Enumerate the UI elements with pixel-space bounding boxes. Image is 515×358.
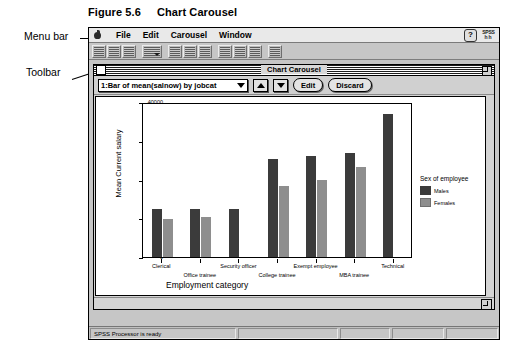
carousel-control-bar: 1:Bar of mean(salnow) by jobcat Edit Dis… <box>94 76 494 95</box>
x-tick-label: College trainee <box>259 272 296 278</box>
toolbar-group-file <box>92 45 136 58</box>
chart-bar <box>279 186 289 257</box>
save-file-icon[interactable] <box>107 45 121 58</box>
menu-item-window[interactable]: Window <box>213 29 258 42</box>
status-cell-c <box>392 328 444 339</box>
spss-logo-icon: SPSS hh <box>481 30 496 41</box>
menu-item-carousel[interactable]: Carousel <box>165 29 213 42</box>
toolbar-group-help <box>268 45 282 58</box>
legend-label: Males <box>434 188 449 194</box>
find-icon[interactable] <box>198 45 212 58</box>
toolbar <box>89 43 499 60</box>
help-tool-icon[interactable] <box>268 45 282 58</box>
legend-swatch <box>420 198 431 207</box>
chart-select-dropdown[interactable]: 1:Bar of mean(salnow) by jobcat <box>98 79 248 92</box>
help-question-icon[interactable]: ? <box>464 29 477 42</box>
insert-variable-icon[interactable] <box>233 45 247 58</box>
x-tick-mark <box>354 259 355 263</box>
chart-bar <box>268 159 278 257</box>
chart-window-titlebar[interactable]: Chart Carousel <box>94 65 494 76</box>
split-file-icon[interactable] <box>248 45 262 58</box>
chart-legend-title: Sex of employee <box>420 175 484 182</box>
edit-button[interactable]: Edit <box>293 78 323 92</box>
toolbar-group-navigate <box>168 45 212 58</box>
chart-y-axis-label: Mean Current salary <box>114 106 123 222</box>
toolbar-group-dialog-recall <box>142 45 162 58</box>
status-cell-b <box>340 328 390 339</box>
x-tick-mark <box>277 259 278 263</box>
previous-chart-button[interactable] <box>253 79 268 92</box>
chart-legend-entry: Females <box>420 198 484 207</box>
callout-menu-bar: Menu bar <box>24 30 68 42</box>
figure-number: Figure 5.6 <box>88 6 141 18</box>
y-tick-mark <box>139 258 143 259</box>
legend-swatch <box>420 186 431 195</box>
x-tick-mark <box>200 259 201 263</box>
chart-bar <box>201 217 211 257</box>
x-tick-label: MBA trainee <box>339 272 369 278</box>
status-message: SPSS Processor is ready <box>90 328 236 339</box>
chart-carousel-window: Chart Carousel 1:Bar of mean(salnow) by … <box>93 64 495 310</box>
chart-bar <box>345 153 355 257</box>
chart-select-value: 1:Bar of mean(salnow) by jobcat <box>101 81 235 90</box>
triangle-up-icon <box>257 83 265 88</box>
callout-toolbar: Toolbar <box>26 66 60 78</box>
chart-legend-entries: MalesFemales <box>420 186 484 207</box>
grow-box-icon[interactable] <box>481 299 492 310</box>
figure-title: Chart Carousel <box>157 6 237 18</box>
chart-bar <box>190 209 200 257</box>
menu-item-file[interactable]: File <box>110 29 137 42</box>
chart-window-title: Chart Carousel <box>94 65 494 75</box>
x-tick-label: Office trainee <box>184 272 217 278</box>
x-tick-label: Exempt employee <box>294 263 338 269</box>
apple-icon[interactable] <box>93 30 102 40</box>
status-cell-d <box>446 328 498 339</box>
goto-case-icon[interactable] <box>168 45 182 58</box>
x-tick-label: Technical <box>381 263 404 269</box>
chart-bar <box>152 209 162 257</box>
chevron-down-icon <box>237 83 245 88</box>
legend-label: Females <box>434 200 455 206</box>
application-window: File Edit Carousel Window ? SPSS hh <box>88 27 500 340</box>
chart-window-title-text: Chart Carousel <box>261 65 327 74</box>
chart-bar <box>229 209 239 257</box>
recall-dialog-icon[interactable] <box>142 45 162 58</box>
discard-button[interactable]: Discard <box>328 78 372 92</box>
chart-x-axis-label: Employment category <box>166 280 248 290</box>
status-bar: SPSS Processor is ready <box>89 326 499 339</box>
chart-bar <box>383 114 393 257</box>
figure-caption: Figure 5.6Chart Carousel <box>88 6 237 18</box>
chart-bar <box>317 180 327 258</box>
chart-window-bottom-bar <box>94 297 494 309</box>
spss-logo-line2: hh <box>481 35 496 40</box>
menu-bar: File Edit Carousel Window ? SPSS hh <box>89 28 499 43</box>
next-chart-button[interactable] <box>273 79 288 92</box>
print-icon[interactable] <box>122 45 136 58</box>
status-cell-a <box>238 328 338 339</box>
chart-plot-area <box>142 103 412 258</box>
chart-bar <box>306 156 316 257</box>
chart-canvas[interactable]: Mean Current salary 01000020000300004000… <box>95 96 486 296</box>
insert-case-icon[interactable] <box>218 45 232 58</box>
toolbar-group-edit-data <box>218 45 262 58</box>
triangle-down-icon <box>277 83 285 88</box>
window-right-filler <box>495 64 499 325</box>
chart-legend: Sex of employee MalesFemales <box>420 175 484 210</box>
x-tick-label: Security officer <box>220 263 256 269</box>
x-tick-label: Clerical <box>152 263 170 269</box>
menu-item-edit[interactable]: Edit <box>137 29 165 42</box>
menu-bar-right-items: ? SPSS hh <box>464 29 496 42</box>
open-file-icon[interactable] <box>92 45 106 58</box>
chart-bar <box>163 219 173 257</box>
zoom-box-icon[interactable] <box>482 66 492 76</box>
variables-icon[interactable] <box>183 45 197 58</box>
chart-legend-entry: Males <box>420 186 484 195</box>
chart-bar <box>356 167 366 257</box>
